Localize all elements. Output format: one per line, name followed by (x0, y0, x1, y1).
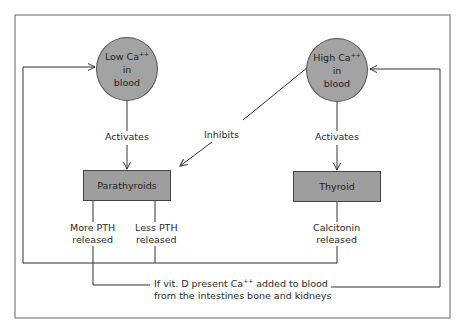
low-calcium-line2: in (123, 63, 132, 76)
high-calcium-line1: High Ca++ (313, 51, 360, 64)
less-pth-line1: Less PTH (135, 222, 178, 234)
inhibits-arrow (180, 142, 212, 166)
more-pth-label: More PTH released (70, 222, 115, 246)
low-calcium-charge: ++ (139, 50, 149, 57)
less-pth-label: Less PTH released (135, 222, 178, 246)
high-activates-text: Activates (315, 131, 359, 142)
high-calcium-line3: blood (324, 77, 350, 90)
low-activates-text: Activates (105, 131, 149, 142)
inhibits-label: Inhibits (204, 129, 239, 141)
more-pth-line2: released (70, 234, 115, 246)
parathyroids-label: Parathyroids (97, 180, 156, 191)
calcitonin-line2: released (313, 234, 360, 246)
high-activates-label: Activates (315, 131, 359, 143)
more-pth-line1: More PTH (70, 222, 115, 234)
thyroid-node: Thyroid (293, 171, 381, 202)
outer-frame (15, 15, 450, 318)
high-calcium-charge: ++ (351, 51, 361, 58)
vitamin-d-footnote: If vit. D present Ca++ added to blood fr… (154, 278, 331, 302)
less-pth-line2: released (135, 234, 178, 246)
thyroid-label: Thyroid (319, 181, 355, 192)
low-calcium-line3: blood (114, 76, 140, 89)
more-pth-line-bottom (93, 246, 150, 285)
low-calcium-line1: Low Ca++ (105, 50, 149, 63)
inhibits-text: Inhibits (204, 129, 239, 140)
high-calcium-node: High Ca++ in blood (306, 38, 368, 102)
footnote-line1: If vit. D present Ca++ added to blood (154, 278, 331, 290)
parathyroids-node: Parathyroids (83, 170, 171, 201)
footnote-line1-prefix: If vit. D present Ca (154, 278, 243, 289)
footnote-line2: from the intestines bone and kidneys (154, 290, 331, 302)
low-activates-label: Activates (105, 131, 149, 143)
high-calcium-text: High Ca (313, 52, 350, 63)
footnote-charge: ++ (243, 277, 253, 284)
calcitonin-line1: Calcitonin (313, 222, 360, 234)
calcitonin-label: Calcitonin released (313, 222, 360, 246)
footnote-line1-suffix: added to blood (253, 278, 328, 289)
low-calcium-node: Low Ca++ in blood (96, 37, 158, 101)
high-calcium-line2: in (333, 64, 342, 77)
low-calcium-text: Low Ca (105, 51, 139, 62)
inhibits-line-top (243, 67, 308, 120)
